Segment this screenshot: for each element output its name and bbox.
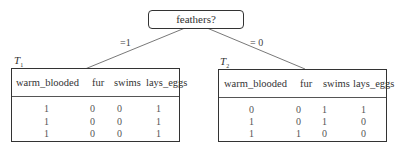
cell: 1	[156, 102, 161, 115]
col-lays-eggs: lays_eggs	[353, 70, 394, 97]
col-fur: fur	[92, 69, 104, 96]
col-lays-eggs: lays_eggs	[146, 69, 187, 96]
col-swims: swims	[114, 69, 141, 96]
table-header: warm_blooded fur swims lays_eggs	[219, 70, 386, 98]
table-t2: warm_blooded fur swims lays_eggs 0 0 1 1…	[218, 69, 387, 142]
col-warm-blooded: warm_blooded	[16, 69, 79, 96]
cell: 0	[90, 127, 95, 140]
edge-left	[85, 28, 185, 69]
col-warm-blooded: warm_blooded	[224, 70, 287, 97]
edge-label-right: = 0	[250, 37, 263, 48]
table-label-t2: T2	[220, 55, 229, 69]
cell: 1	[156, 127, 161, 140]
cell: 0	[90, 102, 95, 115]
cell: 0	[322, 127, 327, 140]
root-node-feathers: feathers?	[148, 10, 244, 29]
table-row: 1 0 0 1	[12, 102, 179, 115]
cell: 0	[361, 127, 366, 140]
cell: 1	[249, 127, 254, 140]
cell: 1	[44, 127, 49, 140]
edge-label-left: =1	[120, 37, 131, 48]
cell: 1	[44, 102, 49, 115]
cell: 0	[117, 102, 122, 115]
table-t1: warm_blooded fur swims lays_eggs 1 0 0 1…	[11, 68, 180, 142]
table-row: 1 0 0 1	[12, 127, 179, 140]
table-header: warm_blooded fur swims lays_eggs	[12, 69, 179, 97]
table-label-t1: T1	[14, 54, 23, 68]
col-swims: swims	[323, 70, 350, 97]
cell: 1	[296, 127, 301, 140]
table-row: 1 1 0 0	[219, 127, 386, 140]
cell: 0	[117, 127, 122, 140]
col-fur: fur	[300, 70, 312, 97]
